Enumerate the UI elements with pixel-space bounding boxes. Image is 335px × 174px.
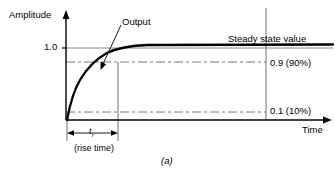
rise-time-symbol-label: tr — [89, 126, 94, 138]
rise-time-figure: Amplitude 1.0 Output Steady state value … — [0, 0, 335, 174]
rise-time-subscript: r — [92, 131, 95, 138]
ninety-percent-label: 0.9 (90%) — [270, 57, 311, 68]
rise-time-caption: (rise time) — [74, 143, 114, 154]
rise-time-arrow-left — [67, 130, 74, 136]
x-axis-label: Time — [302, 124, 323, 135]
x-axis-arrowhead — [323, 117, 332, 124]
y-axis-label: Amplitude — [9, 9, 51, 20]
steady-state-label: Steady state value — [228, 33, 306, 44]
rise-time-arrow-right — [111, 130, 118, 136]
output-annotation-label: Output — [122, 16, 151, 27]
plot-canvas — [0, 0, 335, 174]
y-axis-arrowhead — [63, 10, 70, 19]
figure-caption: (a) — [161, 155, 173, 166]
output-leader-line — [103, 25, 121, 64]
ten-percent-label: 0.1 (10%) — [270, 105, 311, 116]
y-tick-label-one: 1.0 — [44, 41, 57, 52]
